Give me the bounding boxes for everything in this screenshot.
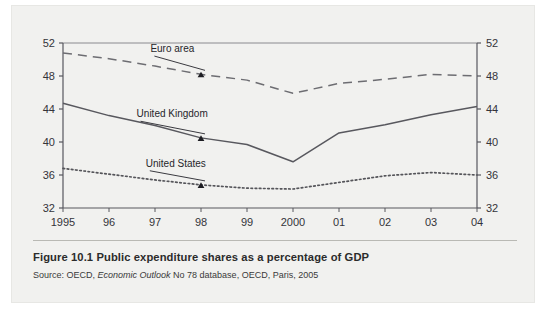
source-publication: Economic Outlook: [98, 270, 171, 280]
chart-axes: [63, 43, 477, 208]
y-tick-label-left: 36: [43, 169, 55, 181]
x-tick-label: 01: [333, 216, 345, 228]
caption-divider: [33, 240, 517, 241]
figure-source-line: Source: OECD, Economic Outlook No 78 dat…: [33, 270, 318, 280]
series-line: [63, 103, 477, 162]
series-line: [63, 168, 477, 189]
chart-series-annotations: Euro areaUnited KingdomUnited States: [137, 43, 208, 188]
x-tick-label: 99: [241, 216, 253, 228]
source-prefix: Source: OECD,: [33, 270, 98, 280]
series-annotation-label: United Kingdom: [137, 108, 208, 119]
annotation-leader-line: [154, 56, 205, 70]
x-tick-label: 97: [149, 216, 161, 228]
chart-tick-marks: [59, 43, 481, 212]
y-tick-label-right: 52: [486, 37, 498, 49]
source-suffix: No 78 database, OECD, Paris, 2005: [171, 270, 319, 280]
y-tick-label-right: 48: [486, 70, 498, 82]
y-tick-label-right: 40: [486, 136, 498, 148]
y-axis-labels-right: 323640444852: [486, 37, 498, 214]
y-tick-label-left: 32: [43, 202, 55, 214]
series-annotation-label: Euro area: [150, 43, 194, 54]
series-line: [63, 53, 477, 93]
x-tick-label: 98: [195, 216, 207, 228]
x-axis-labels: 199596979899200001020304: [51, 216, 483, 228]
series-annotation-label: United States: [146, 158, 206, 169]
chart-plot-area: 323640444852 323640444852 19959697989920…: [12, 6, 534, 238]
y-tick-label-right: 32: [486, 202, 498, 214]
x-tick-label: 04: [471, 216, 483, 228]
x-tick-label: 2000: [281, 216, 305, 228]
figure-container: 323640444852 323640444852 19959697989920…: [0, 0, 546, 316]
chart-series-lines: [63, 53, 477, 189]
figure-title-text: Public expenditure shares as a percentag…: [96, 251, 369, 263]
x-tick-label: 03: [425, 216, 437, 228]
y-tick-label-right: 36: [486, 169, 498, 181]
line-chart-svg: 323640444852 323640444852 19959697989920…: [12, 6, 534, 238]
annotation-leader-line: [150, 171, 205, 181]
y-tick-label-left: 40: [43, 136, 55, 148]
x-tick-label: 1995: [51, 216, 75, 228]
figure-number: Figure 10.1: [33, 251, 93, 263]
y-tick-label-left: 44: [43, 103, 55, 115]
y-tick-label-left: 52: [43, 37, 55, 49]
annotation-leader-line: [141, 121, 205, 134]
x-tick-label: 96: [103, 216, 115, 228]
y-tick-label-left: 48: [43, 70, 55, 82]
y-tick-label-right: 44: [486, 103, 498, 115]
figure-caption-title: Figure 10.1 Public expenditure shares as…: [33, 251, 369, 263]
x-tick-label: 02: [379, 216, 391, 228]
y-axis-labels-left: 323640444852: [43, 37, 55, 214]
figure-caption-block: Figure 10.1 Public expenditure shares as…: [12, 240, 534, 302]
